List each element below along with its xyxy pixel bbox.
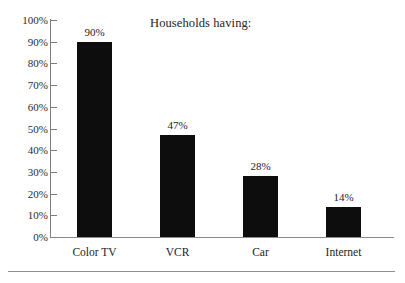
y-axis-tick [51,215,57,216]
y-axis-tick [51,20,57,21]
y-axis-tick [51,107,57,108]
y-axis-tick-label: 0% [33,232,48,243]
bar-value-label: 28% [231,161,291,172]
y-axis-tick-label: 80% [28,58,48,69]
bar [243,176,278,237]
x-axis-category-label: Internet [294,246,394,259]
bar [160,135,195,237]
y-axis-tick-label: 90% [28,37,48,48]
bar-chart-figure: Households having: 0%10%20%30%40%50%60%7… [0,0,405,283]
y-axis-tick-label: 10% [28,210,48,221]
y-axis-tick-label: 50% [28,124,48,135]
bar [77,42,112,237]
y-axis-tick [51,129,57,130]
y-axis-tick [51,172,57,173]
y-axis-tick [51,194,57,195]
bar [326,207,361,237]
y-axis-tick [51,85,57,86]
y-axis-tick-label: 30% [28,167,48,178]
y-axis-tick [51,237,57,238]
chart-title: Households having: [150,16,251,31]
y-axis-tick-label: 100% [22,15,48,26]
y-axis-tick-label: 70% [28,80,48,91]
bar-value-label: 47% [148,120,208,131]
y-axis-tick-label: 20% [28,189,48,200]
y-axis-tick [51,150,57,151]
y-axis-tick-label: 40% [28,145,48,156]
bar-value-label: 14% [314,192,374,203]
y-axis-tick [51,42,57,43]
bar-value-label: 90% [65,27,125,38]
x-axis-line [50,237,394,238]
y-axis-tick [51,63,57,64]
footer-divider [8,271,395,272]
y-axis-tick-label: 60% [28,102,48,113]
